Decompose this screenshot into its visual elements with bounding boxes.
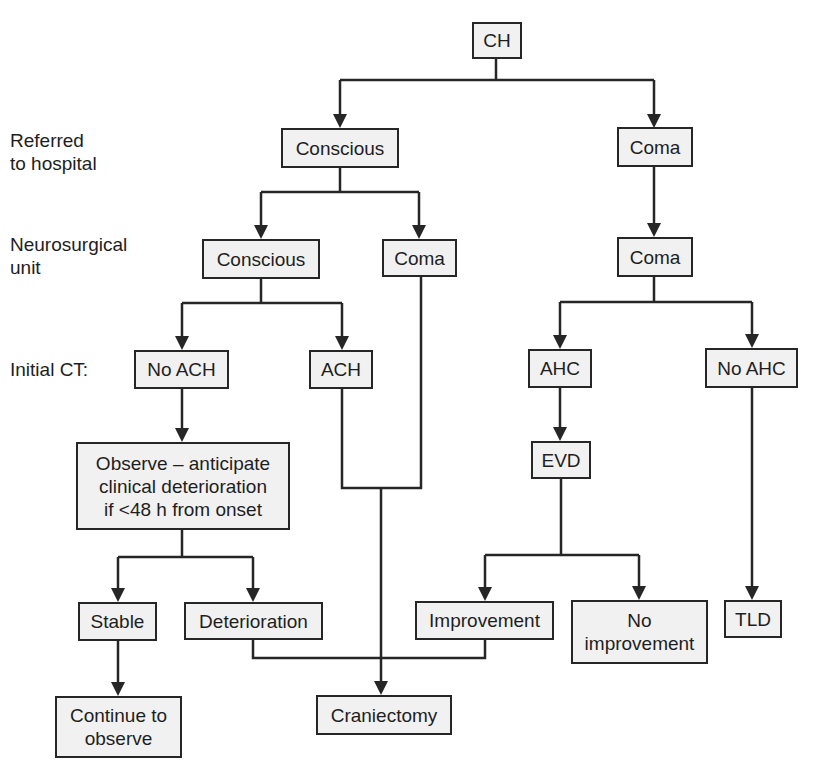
node-no-ach: No ACH	[134, 350, 229, 389]
node-tld: TLD	[724, 600, 782, 638]
node-coma-referred: Coma	[617, 127, 693, 167]
stage-label-initial-ct: Initial CT:	[10, 358, 88, 381]
node-stable: Stable	[78, 602, 157, 641]
stage-label-referred: Referred to hospital	[10, 129, 97, 175]
node-ach: ACH	[309, 350, 373, 389]
node-ch: CH	[472, 22, 522, 59]
node-no-ahc: No AHC	[705, 348, 798, 388]
node-craniectomy: Craniectomy	[316, 695, 452, 735]
node-ahc: AHC	[528, 349, 592, 388]
node-coma-unit-left: Coma	[382, 239, 457, 277]
node-coma-unit-right: Coma	[617, 237, 693, 277]
node-continue-to-observe: Continue to observe	[55, 696, 182, 758]
node-evd: EVD	[531, 441, 591, 479]
node-observe: Observe – anticipate clinical deteriorat…	[76, 442, 290, 530]
stage-label-neurosurgical-unit: Neurosurgical unit	[10, 233, 127, 279]
flowchart: Referred to hospital Neurosurgical unit …	[0, 0, 828, 770]
node-conscious-unit: Conscious	[202, 239, 320, 279]
node-deterioration: Deterioration	[184, 602, 323, 640]
node-improvement: Improvement	[415, 601, 554, 640]
node-conscious-referred: Conscious	[281, 128, 399, 168]
node-no-improvement: No improvement	[571, 600, 708, 664]
